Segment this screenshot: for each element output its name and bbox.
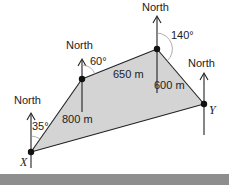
point-label-y: Y (209, 103, 217, 117)
point-b (154, 46, 160, 52)
distance-label-xa: 800 m (62, 113, 93, 125)
north-label-y: North (188, 57, 215, 69)
point-label-x: X (19, 155, 28, 169)
bottom-bar (0, 174, 229, 185)
distance-label-b: 600 m (154, 79, 185, 91)
north-label-x: North (14, 94, 41, 106)
point-a (79, 76, 85, 82)
angle-label-a: 60° (90, 55, 107, 67)
angle-arc-x (31, 136, 40, 139)
angle-label-b: 140° (171, 29, 194, 41)
distance-label-ab: 650 m (113, 68, 144, 80)
bearing-diagram: North North North North 35° 60° 140° 800… (0, 0, 229, 185)
angle-label-x: 35° (32, 120, 49, 132)
point-x (28, 149, 34, 155)
north-label-a: North (66, 39, 93, 51)
point-y (201, 101, 207, 107)
north-label-b: North (142, 1, 169, 13)
